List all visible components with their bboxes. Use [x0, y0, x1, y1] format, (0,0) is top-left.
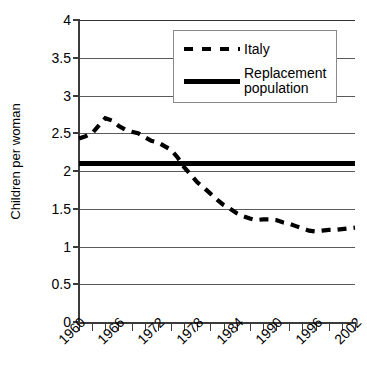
y-tick-mark-2.5 [73, 132, 80, 134]
x-tick-mark-1980 [210, 324, 211, 331]
y-tick-label-0.5: 0.5 [28, 277, 76, 291]
y-tick-mark-3.5 [73, 57, 80, 59]
y-tick-mark-2 [73, 170, 80, 172]
x-tick-mark-1962 [92, 324, 93, 331]
gridline-y-4 [79, 20, 355, 21]
y-tick-mark-3 [73, 95, 80, 97]
legend-swatch-dashed-line-icon [182, 37, 244, 61]
legend-label-replacement-line2: population [244, 80, 309, 96]
y-tick-label-2.5: 2.5 [28, 126, 76, 140]
gridline-y-2 [79, 171, 355, 172]
y-tick-label-1.5: 1.5 [28, 202, 76, 216]
legend-label-italy: Italy [244, 42, 270, 57]
y-tick-label-3.5: 3.5 [28, 51, 76, 65]
x-tick-mark-1986 [250, 324, 251, 331]
y-tick-label-2: 2 [28, 164, 76, 178]
gridline-y-1 [79, 247, 355, 248]
legend-item-replacement: Replacement population [174, 63, 336, 99]
legend-label-replacement: Replacement population [244, 66, 327, 95]
x-tick-mark-1968 [132, 324, 133, 331]
legend-item-italy: Italy [174, 37, 336, 61]
y-tick-mark-1.5 [73, 208, 80, 210]
y-tick-mark-4 [73, 19, 80, 21]
y-tick-mark-1 [73, 246, 80, 248]
y-tick-label-3: 3 [28, 89, 76, 103]
y-tick-label-4: 4 [28, 13, 76, 27]
x-tick-mark-1974 [171, 324, 172, 331]
legend-swatch-solid-line-icon [182, 69, 244, 93]
chart-screenshot: Children per woman 00.511.522.533.54 196… [0, 0, 367, 384]
gridline-y-0.5 [79, 284, 355, 285]
y-tick-mark-0.5 [73, 283, 80, 285]
legend-label-replacement-line1: Replacement [244, 65, 327, 81]
y-tick-label-1: 1 [28, 240, 76, 254]
y-axis-title: Children per woman [0, 0, 30, 322]
gridline-y-2.5 [79, 133, 355, 134]
x-tick-mark-1998 [329, 324, 330, 331]
chart-legend: Italy Replacement population [173, 30, 337, 103]
gridline-y-1.5 [79, 209, 355, 210]
x-tick-mark-1992 [289, 324, 290, 331]
y-axis-title-text: Children per woman [8, 103, 23, 219]
